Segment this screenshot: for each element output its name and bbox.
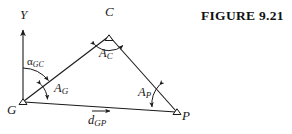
distance-label-dgp: dGP [88,114,106,128]
angle-label-alpha-gc: αGC [27,56,44,69]
ac-subscript: C [107,51,113,61]
ap-subscript: P [146,90,152,100]
ac-base: A [99,46,107,60]
ag-subscript: G [62,86,69,96]
dgp-subscript: GP [94,118,106,128]
angle-arc-alpha-gc [23,68,49,81]
angle-label-ag: AG [54,82,68,96]
angle-label-ap: AP [138,86,151,100]
vertex-label-p: P [182,109,190,122]
vertex-label-c: C [105,5,114,18]
alpha-subscript: GC [33,60,44,69]
vertex-marker-C [105,35,113,41]
axis-label-y: Y [20,8,27,21]
ap-base: A [138,85,146,99]
figure-container: Y C G P αGC AG AC AP dGP FIGURE 9.21 [0,0,292,134]
figure-title: FIGURE 9.21 [201,8,284,24]
ag-base: A [54,81,62,95]
angle-label-ac: AC [99,47,113,61]
vertex-label-g: G [7,103,16,116]
